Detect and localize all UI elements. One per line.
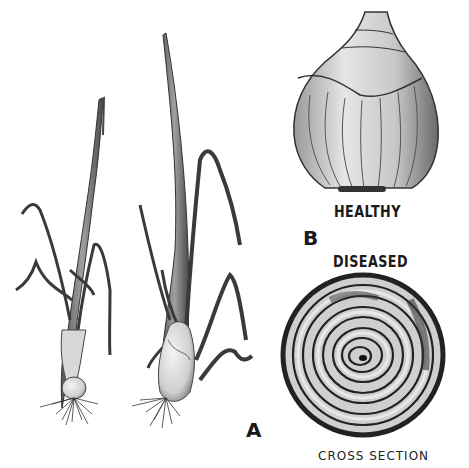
panel-a-label: A [246,418,262,442]
onion-illustration [0,0,469,468]
healthy-label: HEALTHY [334,203,401,221]
cross-section-label: CROSS SECTION [318,449,429,463]
diseased-cross-section [283,275,443,435]
illustration: HEALTHY B DISEASED A CROSS SECTION [0,0,469,468]
diseased-label: DISEASED [333,253,408,271]
healthy-bulb [294,12,438,192]
panel-b-label: B [303,226,319,250]
young-onion-plant-left [16,98,110,425]
young-onion-plant-right [132,33,252,428]
